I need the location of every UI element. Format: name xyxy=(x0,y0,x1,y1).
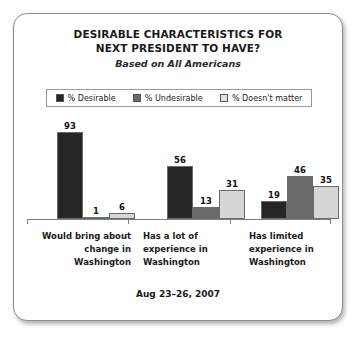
bar-item[interactable]: 13 xyxy=(193,114,219,219)
category-label-1: Has a lot ofexperience inWashington xyxy=(137,230,239,269)
category-label-0: Would bring aboutchange inWashington xyxy=(31,230,131,269)
axis-tick-0 xyxy=(27,219,28,224)
axis-tick-2 xyxy=(230,219,231,224)
bar-rect[interactable] xyxy=(167,166,193,219)
category-label-line: Has a lot of xyxy=(143,230,239,243)
page-title-line-2: NEXT PRESIDENT TO HAVE? xyxy=(14,42,342,56)
legend-item-label: % Doesn't matter xyxy=(232,94,302,103)
legend-item-0[interactable]: % Desirable xyxy=(56,94,116,103)
bar-rect[interactable] xyxy=(219,190,245,219)
legend-item-2[interactable]: % Doesn't matter xyxy=(220,94,302,103)
axis-tick-1 xyxy=(128,219,129,224)
legend-item-label: % Desirable xyxy=(68,94,116,103)
legend-item-label: % Undesirable xyxy=(145,94,203,103)
bar-group-0: 9316 xyxy=(57,114,135,219)
category-label-line: Washington xyxy=(31,256,131,269)
legend-item-1[interactable]: % Undesirable xyxy=(133,94,203,103)
bar-value-label: 1 xyxy=(93,206,99,216)
category-label-line: experience in xyxy=(249,243,341,256)
bar-group-2: 194635 xyxy=(261,114,339,219)
chart-date-annotation: Aug 23–26, 2007 xyxy=(14,289,342,299)
bar-item[interactable]: 1 xyxy=(83,114,109,219)
bar-group-1: 561331 xyxy=(167,114,245,219)
bar-item[interactable]: 19 xyxy=(261,114,287,219)
bar-item[interactable]: 31 xyxy=(219,114,245,219)
bar-value-label: 19 xyxy=(268,190,280,200)
bar-value-label: 46 xyxy=(294,165,306,175)
bar-rect[interactable] xyxy=(57,132,83,219)
bar-item[interactable]: 56 xyxy=(167,114,193,219)
chart-subtitle: Based on All Americans xyxy=(14,56,342,71)
category-label-line: Washington xyxy=(143,256,239,269)
axis-baseline xyxy=(27,219,331,220)
bar-value-label: 31 xyxy=(226,179,238,189)
category-label-line: experience in xyxy=(143,243,239,256)
category-label-line: change in xyxy=(31,243,131,256)
chart-card: DESIRABLE CHARACTERISTICS FOR NEXT PRESI… xyxy=(13,13,343,321)
category-label-2: Has limitedexperience inWashington xyxy=(239,230,341,269)
bar-value-label: 13 xyxy=(200,196,212,206)
bar-item[interactable]: 6 xyxy=(109,114,135,219)
bar-value-label: 93 xyxy=(64,121,76,131)
category-label-line: Would bring about xyxy=(31,230,131,243)
legend-swatch-icon xyxy=(220,94,228,102)
chart-plot-area: 9316561331194635 xyxy=(27,114,331,219)
bar-item[interactable]: 35 xyxy=(313,114,339,219)
axis-tick-3 xyxy=(330,219,331,224)
bar-rect[interactable] xyxy=(193,207,219,219)
chart-category-labels: Would bring aboutchange inWashingtonHas … xyxy=(27,230,331,280)
chart-legend: % Desirable% Undesirable% Doesn't matter xyxy=(46,89,312,107)
bar-rect[interactable] xyxy=(287,176,313,219)
bar-rect[interactable] xyxy=(261,201,287,219)
chart-title-block: DESIRABLE CHARACTERISTICS FOR NEXT PRESI… xyxy=(14,28,342,71)
category-label-line: Washington xyxy=(249,256,341,269)
legend-swatch-icon xyxy=(56,94,64,102)
legend-swatch-icon xyxy=(133,94,141,102)
bar-item[interactable]: 93 xyxy=(57,114,83,219)
bar-item[interactable]: 46 xyxy=(287,114,313,219)
bar-value-label: 35 xyxy=(320,175,332,185)
bar-value-label: 6 xyxy=(119,202,125,212)
chart-x-axis xyxy=(27,219,331,225)
bar-value-label: 56 xyxy=(174,155,186,165)
page-title-line-1: DESIRABLE CHARACTERISTICS FOR xyxy=(14,28,342,42)
category-label-line: Has limited xyxy=(249,230,341,243)
bar-rect[interactable] xyxy=(313,186,339,219)
